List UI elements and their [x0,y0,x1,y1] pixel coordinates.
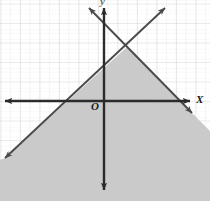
origin-label: O [91,101,99,112]
y-axis-label: y [100,0,105,7]
x-axis-label: X [196,94,203,105]
plot-canvas [0,0,210,201]
coordinate-plane-figure: X y O [0,0,210,201]
